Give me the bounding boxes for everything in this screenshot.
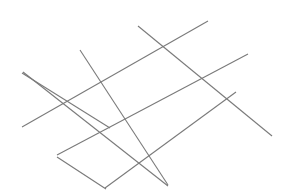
figure-background	[0, 0, 291, 196]
lattice-diagram	[0, 0, 291, 196]
figure-canvas	[0, 0, 291, 196]
